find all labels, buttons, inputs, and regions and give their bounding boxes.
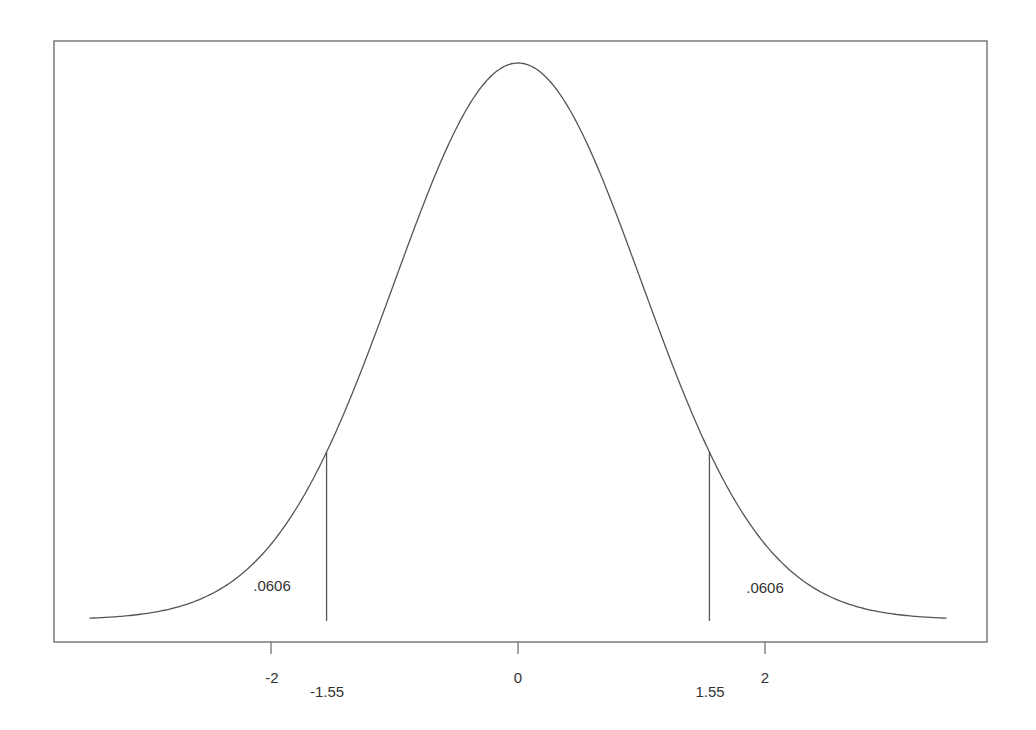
normal-distribution-chart: -2 0 2 -1.55 1.55 .0606 .0606 [0,0,1036,730]
density-curve [89,63,946,618]
critical-value-label-right: 1.55 [695,683,724,700]
x-axis-ticks [271,642,765,654]
tick-label-neg2: -2 [265,669,278,686]
plot-frame [54,41,987,642]
tick-label-0: 0 [514,669,522,686]
tail-area-label-left: .0606 [253,577,291,594]
tick-label-2: 2 [761,669,769,686]
critical-value-label-left: -1.55 [310,683,344,700]
tail-area-label-right: .0606 [746,579,784,596]
